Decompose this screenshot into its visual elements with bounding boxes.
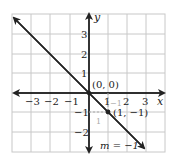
x-tick: 2 [123, 96, 129, 107]
origin-point [87, 91, 91, 95]
origin-label: (0, 0) [92, 79, 119, 90]
point-1-neg1 [106, 110, 111, 115]
y-axis-label: y [93, 11, 101, 24]
x-tick: 3 [142, 96, 148, 107]
coordinate-plane: −3 −2 −1 1 2 3 3 2 1 −1 −2 x y (0, 0) (1… [0, 0, 174, 160]
y-tick: −2 [74, 127, 89, 138]
rise-label: −1 [110, 99, 122, 108]
x-tick: −1 [64, 96, 79, 107]
axes [14, 14, 164, 152]
point-label: (1, −1) [113, 107, 148, 118]
slope-label: m = −1 [100, 140, 139, 151]
y-tick: −1 [74, 107, 89, 118]
run-label: 1 [96, 117, 101, 126]
x-tick: −2 [44, 96, 59, 107]
y-tick: 1 [81, 68, 87, 79]
y-tick: 3 [81, 29, 87, 40]
x-tick: −3 [25, 96, 40, 107]
x-axis-label: x [157, 95, 164, 108]
y-tick: 2 [81, 49, 87, 60]
